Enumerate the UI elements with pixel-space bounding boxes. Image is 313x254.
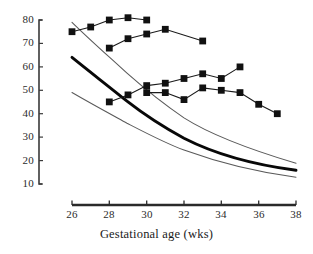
subject-series-b-line [109,29,202,48]
subject-series-a [69,14,151,35]
y-tick-label-50: 50 [12,83,34,95]
y-axis-spine [39,20,42,184]
subject-series-b-markers [106,26,206,52]
y-tick-label-40: 40 [12,107,34,119]
x-axis-title: Gestational age (wks) [0,227,313,242]
x-tick-label-34: 34 [210,208,232,220]
x-axis [72,201,296,206]
subject-series-b [106,26,206,52]
y-tick-label-20: 20 [12,154,34,166]
chart-figure: 80 70 60 50 40 30 20 10 26 28 30 32 34 3… [0,0,313,254]
x-tick-label-26: 26 [61,208,83,220]
reference-centile-median-curve [72,57,296,170]
subject-series-d [143,85,280,118]
y-tick-label-70: 70 [12,36,34,48]
x-tick-label-38: 38 [285,208,307,220]
subject-series-a-markers [69,14,151,35]
y-tick-label-80: 80 [12,13,34,25]
x-tick-label-28: 28 [98,208,120,220]
reference-centile-upper-curve [72,22,296,163]
x-tick-label-30: 30 [136,208,158,220]
x-tick-label-36: 36 [248,208,270,220]
y-tick-label-60: 60 [12,60,34,72]
y-tick-label-10: 10 [12,177,34,189]
y-axis [39,20,43,184]
x-tick-label-32: 32 [173,208,195,220]
y-tick-label-30: 30 [12,130,34,142]
